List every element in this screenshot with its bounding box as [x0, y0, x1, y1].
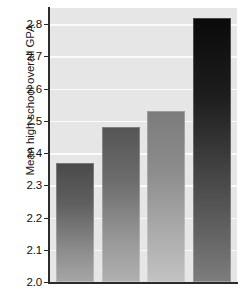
bar[interactable] — [56, 163, 94, 282]
bar[interactable] — [193, 18, 231, 282]
y-axis-tick-label: 2.1 — [2, 244, 42, 256]
bar[interactable] — [102, 127, 140, 282]
y-axis-tick-label: 2.4 — [2, 147, 42, 159]
bar-outline — [193, 18, 231, 282]
y-axis-tick-label: 2.8 — [2, 18, 42, 30]
y-axis-tick-label: 2.2 — [2, 212, 42, 224]
y-axis-tick-label: 2.0 — [2, 276, 42, 288]
plot-area — [50, 8, 237, 282]
bar[interactable] — [147, 111, 185, 282]
bar-chart: Mean high school overall GPA 2.02.12.22.… — [0, 0, 241, 297]
y-axis-tick-label: 2.6 — [2, 83, 42, 95]
x-axis-line — [48, 282, 238, 284]
y-axis-tick-labels: 2.02.12.22.32.42.52.62.72.8 — [0, 0, 46, 297]
y-axis-tick-label: 2.7 — [2, 50, 42, 62]
bar-outline — [56, 163, 94, 282]
y-axis-tick-label: 2.3 — [2, 179, 42, 191]
y-axis-tick-label: 2.5 — [2, 115, 42, 127]
bar-outline — [147, 111, 185, 282]
bar-outline — [102, 127, 140, 282]
